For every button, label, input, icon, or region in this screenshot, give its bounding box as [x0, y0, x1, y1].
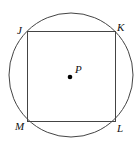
label-p: P: [74, 63, 82, 75]
label-l: L: [116, 122, 123, 134]
center-point-p: [68, 75, 73, 80]
label-m: M: [14, 120, 25, 132]
diagram-canvas: J K L M P: [0, 0, 139, 150]
label-j: J: [17, 24, 23, 36]
label-k: K: [116, 21, 125, 33]
